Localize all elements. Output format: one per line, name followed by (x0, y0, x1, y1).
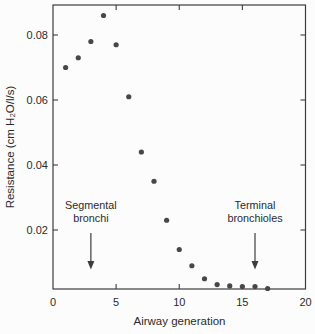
y-axis-title: Resistance (cm H₂O/l/s) (4, 86, 16, 209)
data-point (139, 149, 144, 154)
y-tick-label: 0.06 (27, 94, 48, 106)
data-point (189, 263, 194, 268)
data-point (265, 286, 270, 291)
data-point (227, 283, 232, 288)
data-point (240, 284, 245, 289)
terminal-bronchioles-label: Terminalbronchioles (227, 199, 283, 224)
data-point (252, 284, 257, 289)
data-point (215, 282, 220, 287)
segmental-bronchi-arrow-head (87, 261, 94, 270)
data-point (101, 13, 106, 18)
data-point (177, 247, 182, 252)
y-tick-label: 0.04 (27, 159, 48, 171)
data-point (151, 179, 156, 184)
data-point (63, 65, 68, 70)
data-point (114, 42, 119, 47)
x-tick-label: 15 (236, 296, 248, 308)
x-tick-label: 10 (173, 296, 185, 308)
terminal-bronchioles-arrow-head (252, 261, 259, 270)
data-point (164, 218, 169, 223)
x-tick-label: 5 (113, 296, 119, 308)
data-point (202, 276, 207, 281)
chart-canvas: 051015200.020.040.060.08Segmentalbronchi… (0, 0, 315, 334)
figure-airway-resistance: 051015200.020.040.060.08Segmentalbronchi… (0, 0, 315, 334)
y-tick-label: 0.08 (27, 29, 48, 41)
data-point (88, 39, 93, 44)
data-point (126, 94, 131, 99)
data-point (76, 55, 81, 60)
y-tick-label: 0.02 (27, 224, 48, 236)
x-axis-title: Airway generation (53, 315, 306, 327)
x-tick-label: 0 (50, 296, 56, 308)
x-tick-label: 20 (299, 296, 311, 308)
segmental-bronchi-label: Segmentalbronchi (65, 199, 117, 224)
